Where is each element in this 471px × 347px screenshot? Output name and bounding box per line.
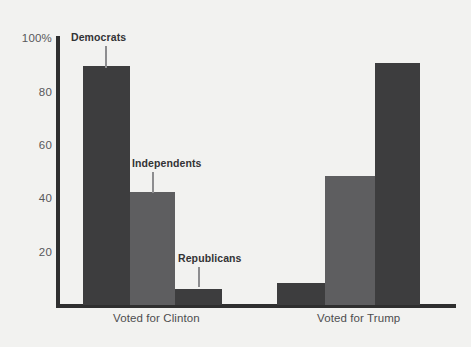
y-tick-40: 40 bbox=[6, 192, 52, 204]
x-label-voted-for-trump: Voted for Trump bbox=[317, 312, 400, 324]
bar-trump-independents bbox=[325, 176, 375, 305]
leader-line-independents bbox=[152, 172, 154, 193]
bar-trump-republicans bbox=[375, 63, 420, 305]
bar-chart: 100% 80 60 40 20 Democrats Independents … bbox=[0, 0, 471, 347]
bar-clinton-independents bbox=[130, 192, 175, 305]
leader-line-republicans bbox=[198, 267, 200, 287]
bar-clinton-democrats bbox=[83, 66, 130, 305]
y-axis-tick-labels: 100% 80 60 40 20 bbox=[0, 0, 52, 347]
y-tick-60: 60 bbox=[6, 139, 52, 151]
bar-clinton-republicans bbox=[175, 289, 222, 305]
y-tick-100: 100% bbox=[6, 32, 52, 44]
bar-trump-democrats bbox=[277, 283, 325, 305]
y-tick-20: 20 bbox=[6, 246, 52, 258]
annotation-democrats: Democrats bbox=[71, 31, 126, 43]
y-tick-80: 80 bbox=[6, 86, 52, 98]
plot-area bbox=[60, 36, 456, 305]
x-label-voted-for-clinton: Voted for Clinton bbox=[113, 312, 200, 324]
annotation-republicans: Republicans bbox=[178, 252, 242, 264]
leader-line-democrats bbox=[105, 46, 107, 68]
annotation-independents: Independents bbox=[132, 157, 201, 169]
